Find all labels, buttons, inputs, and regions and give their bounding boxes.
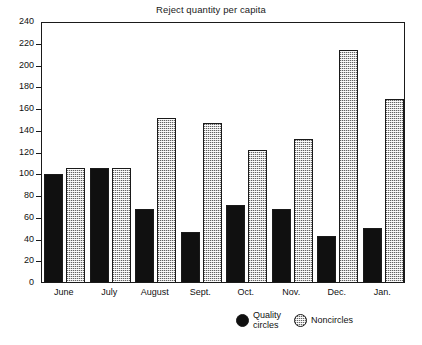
bar-quality-circles-sept: [181, 232, 200, 283]
y-axis-tick-label: 220: [19, 38, 34, 48]
y-axis-tick-label: 180: [19, 81, 34, 91]
bar-quality-circles-june: [44, 174, 63, 283]
bar-quality-circles-august: [135, 209, 154, 283]
bar-quality-circles-oct: [226, 205, 245, 283]
bar-noncircles-jan: [385, 99, 404, 283]
bar-noncircles-nov: [294, 139, 313, 283]
y-axis-tick-label: 140: [19, 125, 34, 135]
bar-noncircles-june: [66, 168, 85, 283]
y-axis-tick-label: 100: [19, 168, 34, 178]
bar-quality-circles-jan: [363, 228, 382, 283]
y-axis-tick-label: 160: [19, 103, 34, 113]
y-axis-tick-label: 200: [19, 60, 34, 70]
x-axis-label-nov: Nov.: [269, 287, 315, 297]
bar-noncircles-oct: [248, 150, 267, 283]
y-axis-tick-label: 80: [24, 190, 34, 200]
y-axis-tick-label: 40: [24, 234, 34, 244]
legend-label-noncircles: Noncircles: [311, 315, 353, 325]
bar-quality-circles-july: [90, 168, 109, 283]
bar-quality-circles-nov: [272, 209, 291, 283]
legend-item-noncircles: Noncircles: [294, 314, 353, 327]
legend-item-quality-circles: Quality circles: [236, 310, 281, 330]
y-axis-tick-label: 240: [19, 16, 34, 26]
bar-noncircles-july: [112, 168, 131, 283]
x-axis-label-sept: Sept.: [178, 287, 224, 297]
x-axis-label-jan: Jan.: [360, 287, 406, 297]
x-axis-label-august: August: [132, 287, 178, 297]
y-axis-tick-label: 120: [19, 147, 34, 157]
bar-noncircles-august: [157, 118, 176, 283]
bar-noncircles-dec: [339, 50, 358, 283]
x-axis-label-oct: Oct.: [223, 287, 269, 297]
chart-title: Reject quantity per capita: [0, 4, 422, 15]
x-axis-label-june: June: [41, 287, 87, 297]
bar-noncircles-sept: [203, 123, 222, 283]
chart-legend: Quality circles Noncircles: [236, 310, 353, 330]
bars-layer: [41, 22, 405, 283]
x-axis-label-july: July: [87, 287, 133, 297]
x-axis-label-dec: Dec.: [314, 287, 360, 297]
legend-swatch-noncircles-icon: [294, 314, 307, 327]
legend-swatch-quality-circles-icon: [236, 314, 249, 327]
y-axis-tick-label: 20: [24, 255, 34, 265]
bar-chart: Reject quantity per capita 0204060801001…: [0, 0, 422, 345]
bar-quality-circles-dec: [317, 236, 336, 283]
y-axis-tick-label: 60: [24, 212, 34, 222]
y-axis-tick-label: 0: [29, 277, 34, 287]
legend-label-quality-circles: Quality circles: [253, 310, 281, 330]
